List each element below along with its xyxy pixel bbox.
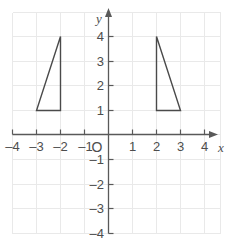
y-axis-label: y (94, 11, 102, 26)
y-tick-label: 3 (97, 54, 104, 69)
y-tick-label: –2 (90, 177, 104, 192)
x-tick-label: –3 (29, 139, 43, 154)
origin-label: O (92, 139, 103, 155)
axes (13, 14, 213, 234)
x-tick-label: 1 (129, 139, 136, 154)
y-tick-label: 4 (97, 29, 104, 44)
right-triangle-shape (157, 37, 181, 111)
coordinate-plot-svg: –4 –3 –2 –1 1 2 3 4 4 3 2 1 –1 –2 –3 –4 … (0, 0, 232, 246)
x-tick-label: 3 (177, 139, 184, 154)
x-tick-label: 4 (201, 139, 208, 154)
y-tick-label: –4 (90, 226, 104, 241)
left-triangle-shape (37, 37, 61, 111)
coordinate-plane-figure: –4 –3 –2 –1 1 2 3 4 4 3 2 1 –1 –2 –3 –4 … (0, 0, 232, 246)
x-tick-label: –2 (53, 139, 67, 154)
y-tick-label: 2 (97, 78, 104, 93)
x-axis-label: x (217, 140, 224, 155)
x-tick-labels: –4 –3 –2 –1 1 2 3 4 (5, 139, 208, 154)
x-tick-label: –4 (5, 139, 19, 154)
y-tick-label: –3 (90, 201, 104, 216)
grid-lines (13, 13, 221, 234)
y-tick-label: 1 (97, 103, 104, 118)
x-tick-label: 2 (153, 139, 160, 154)
x-axis-arrowhead (209, 131, 218, 138)
